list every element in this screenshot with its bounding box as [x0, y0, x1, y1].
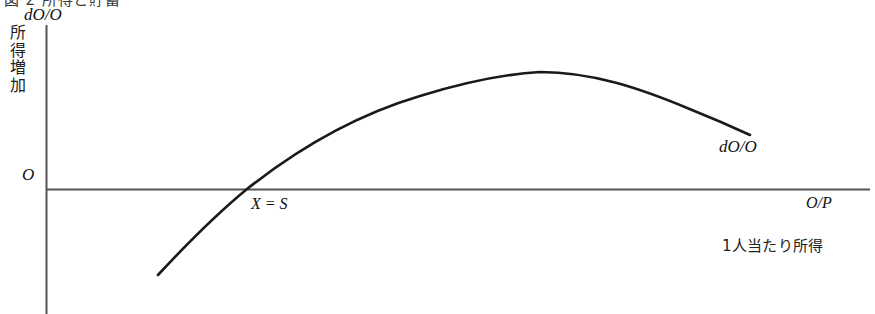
origin-label: O — [22, 166, 34, 183]
y-axis-symbol-label: dO/O — [24, 6, 62, 23]
x-axis-symbol-label: O/P — [806, 195, 832, 211]
plot-area — [0, 0, 875, 314]
income-growth-curve — [158, 72, 750, 275]
crossing-point-label: X = S — [251, 196, 288, 212]
y-axis-description-label: 所得増加 — [2, 24, 24, 94]
curve-label: dO/O — [719, 138, 757, 155]
figure-diagram: 図 2 所得と貯蓄 dO/O 所得増加 O X = S dO/O O/P 1人当… — [0, 0, 875, 314]
x-axis-description-label: 1人当たり所得 — [722, 239, 824, 254]
